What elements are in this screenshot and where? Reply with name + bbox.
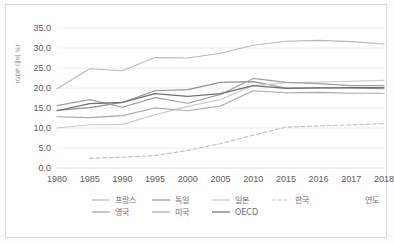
line-chart-svg: 0.05.010.015.020.025.030.035.0 198019851… — [0, 0, 394, 244]
series-lines-group — [57, 40, 384, 158]
x-tick-label: 2018 — [374, 174, 394, 184]
x-tick-label: 2015 — [276, 174, 296, 184]
y-tick-label: 0.0 — [38, 163, 51, 173]
x-tick-label: 2010 — [243, 174, 263, 184]
legend-label-OECD: OECD — [235, 208, 258, 217]
series-line-OECD — [57, 86, 384, 111]
y-tick-label: 20.0 — [33, 83, 51, 93]
x-tick-label: 1995 — [145, 174, 165, 184]
y-tick-label: 10.0 — [33, 123, 51, 133]
y-axis-title: (GDP 대비 %) — [14, 44, 22, 83]
y-tick-labels-group: 0.05.010.015.020.025.030.035.0 — [33, 23, 51, 173]
legend-label-독일: 독일 — [175, 196, 189, 205]
legend-label-프랑스: 프랑스 — [115, 195, 136, 205]
legend-label-일본: 일본 — [235, 196, 249, 205]
x-axis-caption: 연도 — [365, 196, 379, 205]
chart-screenshot: 0.05.010.015.020.025.030.035.0 198019851… — [0, 0, 394, 244]
x-tick-label: 2005 — [210, 174, 230, 184]
y-tick-label: 5.0 — [38, 143, 51, 153]
x-axis-caption-group: 연도 — [365, 196, 379, 205]
x-tick-label: 2000 — [178, 174, 198, 184]
x-tick-labels-group: 1980198519901995200020052010201520162017… — [47, 174, 394, 184]
x-tick-label: 2016 — [309, 174, 329, 184]
x-tick-label: 1990 — [112, 174, 132, 184]
y-tick-label: 25.0 — [33, 63, 51, 73]
x-tick-label: 1980 — [47, 174, 67, 184]
x-tick-label: 2017 — [341, 174, 361, 184]
legend-label-미국: 미국 — [175, 208, 189, 217]
series-line-한국 — [90, 124, 384, 159]
x-tick-label: 1985 — [80, 174, 100, 184]
y-tick-label: 30.0 — [33, 43, 51, 53]
y-tick-label: 35.0 — [33, 23, 51, 33]
y-axis-title-group: (GDP 대비 %) — [14, 44, 22, 83]
legend-label-한국: 한국 — [295, 196, 309, 205]
chart-canvas: 0.05.010.015.020.025.030.035.0 198019851… — [0, 0, 394, 244]
legend-label-영국: 영국 — [115, 207, 129, 217]
legend-group: 프랑스독일일본한국영국미국OECD — [92, 195, 309, 217]
y-tick-label: 15.0 — [33, 103, 51, 113]
gridlines-group — [57, 28, 384, 168]
